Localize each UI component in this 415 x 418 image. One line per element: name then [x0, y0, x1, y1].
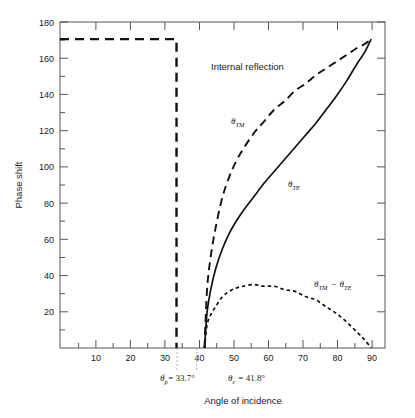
x-tick-labels: 10 20 30 40 50 60 70 80 90 — [91, 353, 377, 363]
x-tick-label: 10 — [91, 353, 101, 363]
x-tick-label: 70 — [298, 353, 308, 363]
chart-svg: 180 160 140 120 100 80 60 40 20 10 20 30… — [0, 0, 415, 418]
y-axis-title: Phase shift — [13, 161, 24, 208]
angle-markers: θp′= 33.7° θc= 41.8° — [160, 372, 265, 385]
y-tick-label: 40 — [44, 271, 54, 281]
y-tick-label: 20 — [44, 307, 54, 317]
phase-shift-chart: 180 160 140 120 100 80 60 40 20 10 20 30… — [0, 0, 415, 418]
x-tick-label: 40 — [194, 353, 204, 363]
brewster-angle-label: θp′= 33.7° — [160, 372, 195, 385]
y-tick-label: 160 — [39, 54, 54, 64]
y-tick-label: 120 — [39, 126, 54, 136]
y-tick-labels: 180 160 140 120 100 80 60 40 20 — [39, 18, 54, 318]
x-tick-label: 30 — [160, 353, 170, 363]
y-tick-label: 80 — [44, 199, 54, 209]
internal-reflection-label: Internal reflection — [211, 61, 284, 72]
x-axis-title: Angle of incidence — [204, 395, 282, 406]
y-tick-label: 180 — [39, 18, 54, 28]
y-tick-label: 100 — [39, 162, 54, 172]
y-tick-label: 60 — [44, 235, 54, 245]
x-tick-label: 80 — [332, 353, 342, 363]
x-tick-label: 90 — [367, 353, 377, 363]
y-tick-label: 140 — [39, 90, 54, 100]
critical-angle-label: θc= 41.8° — [228, 373, 265, 385]
x-tick-label: 50 — [229, 353, 239, 363]
x-tick-label: 20 — [125, 353, 135, 363]
x-tick-label: 60 — [263, 353, 273, 363]
